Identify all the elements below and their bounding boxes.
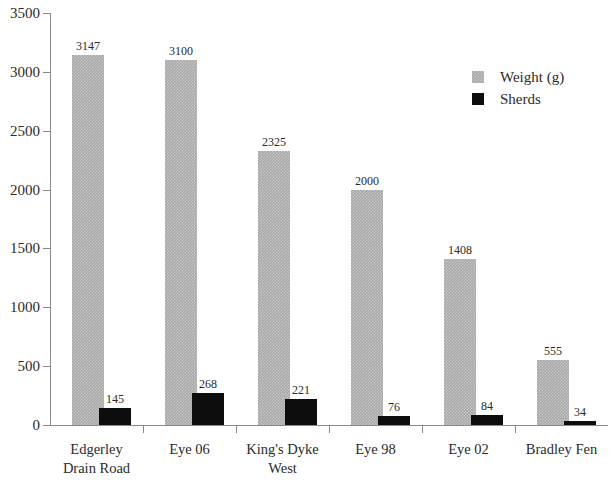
bar-value-label-sherds: 76 xyxy=(370,401,418,413)
y-tick-label: 3500 xyxy=(0,6,47,21)
x-category-label-line1: Eye 06 xyxy=(143,440,236,459)
bar-sherds xyxy=(99,408,131,425)
y-tick-label: 0 xyxy=(0,418,47,433)
y-tick-label: 1500 xyxy=(0,241,47,256)
bar-value-label-sherds: 145 xyxy=(91,393,139,405)
y-tick-label: 2000 xyxy=(0,183,47,198)
bar-sherds xyxy=(285,399,317,425)
legend-label: Sherds xyxy=(500,92,541,107)
x-tick-mark xyxy=(143,426,144,433)
bar-value-label-weight: 555 xyxy=(529,345,577,357)
x-tick-mark xyxy=(329,426,330,433)
bar-chart: 0500100015002000250030003500 31471453100… xyxy=(0,0,610,482)
legend-swatch-weight-icon xyxy=(472,71,484,83)
bar-value-label-weight: 3100 xyxy=(157,45,205,57)
x-category-label-line1: King's Dyke xyxy=(236,440,329,459)
x-category-label-line1: Eye 98 xyxy=(329,440,422,459)
legend-item: Weight (g) xyxy=(472,66,564,88)
bar-value-label-sherds: 84 xyxy=(463,400,511,412)
bar-value-label-weight: 3147 xyxy=(64,40,112,52)
bar-value-label-weight: 2000 xyxy=(343,175,391,187)
x-category-label-line2: Drain Road xyxy=(50,459,143,478)
x-category-label: EdgerleyDrain Road xyxy=(50,440,143,478)
legend-label: Weight (g) xyxy=(500,70,564,85)
x-category-label: Bradley Fen xyxy=(515,440,608,459)
x-tick-mark xyxy=(515,426,516,433)
x-category-label-line1: Eye 02 xyxy=(422,440,515,459)
x-category-label-line1: Edgerley xyxy=(50,440,143,459)
bar-value-label-weight: 1408 xyxy=(436,244,484,256)
bar-value-label-sherds: 221 xyxy=(277,384,325,396)
x-category-label-line1: Bradley Fen xyxy=(515,440,608,459)
x-category-label-line2: West xyxy=(236,459,329,478)
x-category-label: Eye 02 xyxy=(422,440,515,459)
x-tick-mark xyxy=(236,426,237,433)
bar-sherds xyxy=(471,415,503,425)
x-category-label: Eye 98 xyxy=(329,440,422,459)
y-tick-label: 3000 xyxy=(0,65,47,80)
bar-weight xyxy=(351,190,383,425)
y-tick-label: 1000 xyxy=(0,300,47,315)
y-tick-label: 2500 xyxy=(0,124,47,139)
legend-swatch-sherds-icon xyxy=(472,93,484,105)
bar-value-label-sherds: 268 xyxy=(184,378,232,390)
x-category-label: King's DykeWest xyxy=(236,440,329,478)
y-tick-label: 500 xyxy=(0,359,47,374)
bar-value-label-weight: 2325 xyxy=(250,136,298,148)
bar-value-label-sherds: 34 xyxy=(556,406,604,418)
x-category-label: Eye 06 xyxy=(143,440,236,459)
legend-item: Sherds xyxy=(472,88,564,110)
bar-weight xyxy=(165,60,197,425)
bar-weight xyxy=(72,55,104,425)
x-tick-mark xyxy=(422,426,423,433)
legend: Weight (g)Sherds xyxy=(472,66,564,110)
bar-sherds xyxy=(378,416,410,425)
bar-sherds xyxy=(564,421,596,425)
bar-sherds xyxy=(192,393,224,425)
